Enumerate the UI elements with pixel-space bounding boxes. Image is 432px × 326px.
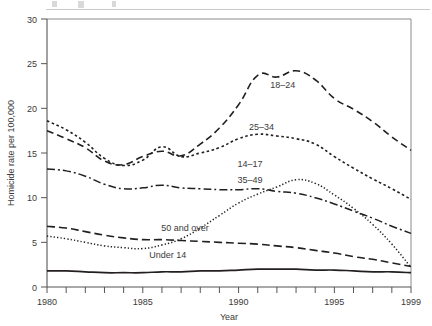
series-label-18-24: 18–24 — [270, 80, 295, 90]
x-axis-ticks — [47, 287, 411, 293]
y-tick-label: 15 — [27, 149, 37, 159]
x-axis: 19801985199019951999 Year — [37, 287, 421, 322]
series-line-50-and-over — [47, 226, 411, 266]
y-axis-ticks — [41, 19, 47, 287]
y-tick-label: 10 — [27, 193, 37, 203]
series-annotations: 18–2425–3414–1735–4950 and overUnder 14 — [149, 80, 295, 260]
y-axis: 30 25 20 15 10 5 0 Homicide rate per 100… — [6, 15, 47, 293]
series-label-50-and-over: 50 and over — [161, 223, 209, 233]
series-label-14-17: 14–17 — [238, 159, 263, 169]
y-axis-title: Homicide rate per 100,000 — [6, 100, 16, 206]
series-label-under-14: Under 14 — [149, 250, 186, 260]
x-axis-title: Year — [220, 312, 238, 322]
y-tick-label: 0 — [32, 283, 37, 293]
x-tick-label: 1980 — [37, 297, 57, 307]
scan-artifact-top — [46, 1, 430, 10]
x-tick-label: 1995 — [324, 297, 344, 307]
plot-frame — [47, 19, 411, 287]
y-tick-label: 5 — [32, 238, 37, 248]
series-line-18-24 — [47, 71, 411, 165]
x-axis-tick-labels: 19801985199019951999 — [37, 297, 421, 307]
series-line-14-17 — [47, 180, 411, 268]
y-axis-tick-labels: 30 25 20 15 10 5 0 — [27, 15, 37, 293]
series-line-25-34 — [47, 121, 411, 200]
x-tick-label: 1999 — [401, 297, 421, 307]
chart-svg: 30 25 20 15 10 5 0 Homicide rate per 100… — [0, 0, 432, 326]
y-tick-label: 20 — [27, 104, 37, 114]
x-tick-label: 1985 — [133, 297, 153, 307]
homicide-rate-chart: 30 25 20 15 10 5 0 Homicide rate per 100… — [0, 0, 432, 326]
y-tick-label: 30 — [27, 15, 37, 25]
series-line-under-14 — [47, 269, 411, 273]
series-line-35-49 — [47, 169, 411, 233]
series-lines — [47, 71, 411, 273]
series-label-35-49: 35–49 — [238, 175, 263, 185]
y-tick-label: 25 — [27, 59, 37, 69]
x-tick-label: 1990 — [229, 297, 249, 307]
series-label-25-34: 25–34 — [249, 122, 274, 132]
